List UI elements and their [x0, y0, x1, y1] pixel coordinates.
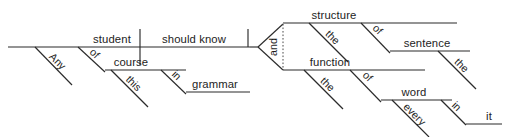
- word-this: this: [124, 73, 144, 93]
- compound-object-fork-group: and: [250, 24, 283, 70]
- word-the-3: the: [318, 74, 337, 93]
- slant-the-3: [304, 70, 343, 109]
- prep-phrase-in-grammar-group: in grammar: [161, 68, 250, 94]
- word-course: course: [114, 56, 149, 68]
- reed-kellogg-diagram: student should know Any of course this i…: [0, 0, 506, 137]
- object-structure-group: structure the of sentence the: [283, 9, 476, 89]
- word-grammar: grammar: [192, 78, 238, 90]
- word-of-2: of: [371, 22, 386, 37]
- modifier-this-group: this: [111, 70, 148, 107]
- prep-phrase-of-course-group: of course: [78, 46, 186, 72]
- word-structure: structure: [312, 9, 357, 21]
- sentence-diagram-canvas: student should know Any of course this i…: [0, 0, 506, 137]
- word-it: it: [486, 110, 493, 122]
- word-of-3: of: [361, 69, 376, 84]
- word-the-1: the: [323, 27, 342, 46]
- word-word: word: [401, 86, 427, 98]
- modifier-any-group: Any: [35, 47, 72, 85]
- word-student: student: [93, 33, 132, 45]
- word-function: function: [310, 56, 350, 68]
- word-the-2: the: [452, 55, 471, 74]
- word-any: Any: [47, 50, 69, 72]
- word-sentence: sentence: [404, 37, 451, 49]
- slant-the-2: [438, 51, 476, 89]
- word-should-know: should know: [162, 33, 227, 45]
- word-and: and: [267, 38, 279, 56]
